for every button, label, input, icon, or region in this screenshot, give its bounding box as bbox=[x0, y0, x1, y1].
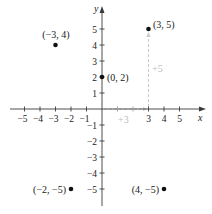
y-tick-label: −1 bbox=[87, 121, 97, 131]
point-label: (−3, 4) bbox=[42, 29, 69, 41]
point-4-neg5 bbox=[162, 187, 167, 192]
coordinate-plane: −5 −4 −3 −2 −1 3 4 5 5 4 3 2 1 −1 −2 −3 … bbox=[0, 0, 212, 214]
x-tick-label: 5 bbox=[177, 114, 182, 124]
point-label: (3, 5) bbox=[153, 19, 175, 31]
point-neg2-neg5 bbox=[69, 187, 74, 192]
y-tick-label: 4 bbox=[92, 41, 97, 51]
y-axis-label: y bbox=[93, 3, 99, 14]
y-tick-label: 5 bbox=[92, 25, 97, 35]
point-label: (0, 2) bbox=[107, 72, 129, 84]
y-tick-label: 1 bbox=[92, 89, 97, 99]
x-axis-arrow-icon bbox=[199, 107, 206, 112]
x-tick-label: 4 bbox=[162, 114, 167, 124]
point-label: (−2, −5) bbox=[33, 184, 66, 196]
y-tick-label: −3 bbox=[87, 153, 97, 163]
point-label: (4, −5) bbox=[132, 184, 159, 196]
plus-five-annotation: +5 bbox=[152, 63, 163, 74]
y-axis-arrow-icon bbox=[100, 6, 105, 13]
x-tick-label: −5 bbox=[17, 114, 27, 124]
point-3-5 bbox=[146, 27, 151, 32]
vertical-guide-arrowhead-icon bbox=[147, 32, 151, 37]
x-tick-label: −2 bbox=[64, 114, 74, 124]
x-tick-label: −4 bbox=[33, 114, 43, 124]
x-axis-label: x bbox=[197, 112, 203, 123]
axes bbox=[10, 6, 206, 206]
y-tick-labels: 5 4 3 2 1 −1 −2 −3 −4 −5 bbox=[87, 25, 97, 195]
y-tick-label: 2 bbox=[92, 73, 97, 83]
y-tick-label: 3 bbox=[92, 57, 97, 67]
plus-three-annotation: +3 bbox=[118, 114, 129, 125]
y-tick-label: −2 bbox=[87, 137, 97, 147]
point-0-2 bbox=[100, 75, 105, 80]
x-tick-label: 3 bbox=[146, 114, 151, 124]
plotted-points: (3, 5) (−3, 4) (0, 2) (−2, −5) (4, −5) bbox=[33, 19, 175, 196]
y-tick-label: −4 bbox=[87, 169, 97, 179]
x-tick-labels: −5 −4 −3 −2 −1 3 4 5 bbox=[17, 114, 182, 124]
x-tick-label: −3 bbox=[48, 114, 58, 124]
y-tick-label: −5 bbox=[87, 185, 97, 195]
point-neg3-4 bbox=[53, 43, 58, 48]
